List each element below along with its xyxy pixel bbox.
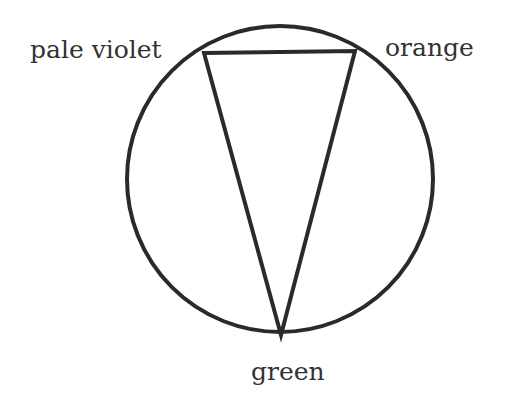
inscribed-triangle [204, 51, 355, 335]
label-green: green [251, 357, 325, 386]
color-wheel-circle [127, 26, 433, 332]
label-orange: orange [385, 33, 474, 62]
diagram-canvas: pale violet orange green [0, 0, 505, 407]
label-pale-violet: pale violet [30, 35, 162, 64]
